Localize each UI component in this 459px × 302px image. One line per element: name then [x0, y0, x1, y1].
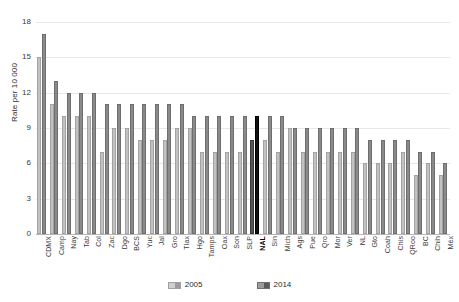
bar-group	[112, 22, 123, 234]
x-axis-label-Pue: Pue	[309, 236, 316, 249]
y-tick-label-0: 0	[27, 230, 31, 238]
x-axis-label-Dgo: Dgo	[121, 236, 128, 249]
bar-group	[288, 22, 299, 234]
x-axis-label-Zac: Zac	[108, 236, 115, 248]
x-axis-label-Mor: Mor	[334, 236, 341, 248]
bar-group	[125, 22, 136, 234]
bar-2005-Oax	[213, 152, 217, 234]
bar-2005-NL	[351, 152, 355, 234]
bar-2005-Gto	[363, 163, 367, 234]
bar-group	[175, 22, 186, 234]
bar-group	[313, 22, 324, 234]
bar-2005-Qro	[313, 152, 317, 234]
x-axis-label-Chih: Chih	[434, 236, 441, 251]
bar-2005-NAL	[250, 140, 254, 234]
bar-2005-Jal	[150, 140, 154, 234]
bar-2014-Coah	[381, 140, 385, 234]
bar-2005-Camp	[50, 104, 54, 234]
x-axis-label-Hgo: Hgo	[196, 236, 203, 249]
x-axis-label-Tab: Tab	[83, 236, 90, 248]
bar-2005-Hgo	[188, 128, 192, 234]
bar-group	[87, 22, 98, 234]
chart-legend: 2005 2014	[0, 281, 459, 289]
bar-2014-Tab	[79, 93, 83, 234]
x-axis-label-Chis: Chis	[397, 236, 404, 250]
plot-area: 0369121518	[36, 22, 450, 234]
bar-group	[138, 22, 149, 234]
x-axis-label-CDMX: CDMX	[45, 236, 52, 257]
bar-2014-NL	[355, 128, 359, 234]
bar-group	[50, 22, 61, 234]
bar-2005-BCS	[125, 128, 129, 234]
bar-2005-BC	[414, 175, 418, 234]
x-axis-label-Yuc: Yuc	[146, 236, 153, 248]
bar-2014-SLP	[243, 116, 247, 234]
bar-2014-Ver	[343, 128, 347, 234]
bar-group	[401, 22, 412, 234]
bar-2014-Pue	[305, 128, 309, 234]
bar-2014-Qro	[318, 128, 322, 234]
bar-group	[426, 22, 437, 234]
x-axis-label-Coah: Coah	[384, 236, 391, 253]
bar-2014-Chis	[393, 140, 397, 234]
bar-2014-Tlax	[180, 104, 184, 234]
bar-2005-Son	[225, 152, 229, 234]
bar-2014-NAL	[255, 116, 259, 234]
bar-2005-QRoo	[401, 152, 405, 234]
x-axis-label-Gro: Gro	[171, 236, 178, 248]
bar-group	[37, 22, 48, 234]
bar-group	[388, 22, 399, 234]
bar-group	[150, 22, 161, 234]
bar-2005-CDMX	[37, 57, 41, 234]
bar-2014-Ags	[293, 128, 297, 234]
bar-2005-Coah	[376, 163, 380, 234]
x-axis-label-Nay: Nay	[70, 236, 77, 249]
bar-2005-Pue	[301, 152, 305, 234]
bar-2005-Chih	[426, 163, 430, 234]
x-axis-label-Son: Son	[233, 236, 240, 249]
y-tick-label-15: 15	[22, 53, 31, 61]
x-axis-label-Jal: Jal	[158, 236, 165, 245]
bar-2014-Gto	[368, 140, 372, 234]
bar-group	[188, 22, 199, 234]
bar-2014-Sin	[268, 116, 272, 234]
bar-group	[439, 22, 450, 234]
x-axis-label-Col: Col	[95, 236, 102, 247]
x-axis-label-SLP: SLP	[246, 236, 253, 250]
bar-2014-Dgo	[117, 104, 121, 234]
y-tick-label-12: 12	[22, 89, 31, 97]
x-axis-label-Gto: Gto	[371, 236, 378, 248]
bar-2005-Sin	[263, 140, 267, 234]
bar-2014-BC	[418, 152, 422, 234]
bar-2005-Méx	[439, 175, 443, 234]
bar-2005-Dgo	[112, 128, 116, 234]
x-axis-label-Sin: Sin	[271, 236, 278, 246]
y-tick-label-9: 9	[27, 124, 31, 132]
x-axis-label-NAL: NAL	[259, 236, 266, 251]
bar-2005-Yuc	[138, 140, 142, 234]
bar-group	[225, 22, 236, 234]
bar-2014-Jal	[155, 104, 159, 234]
legend-label-2005: 2005	[185, 281, 203, 289]
legend-item-2014: 2014	[257, 281, 292, 289]
bar-2005-Ver	[338, 152, 342, 234]
bar-chart: Rate per 10 000 0369121518 CDMXCampNayTa…	[0, 0, 459, 302]
bar-group	[338, 22, 349, 234]
bar-group	[250, 22, 261, 234]
bar-2005-Zac	[100, 152, 104, 234]
legend-swatch-2005-icon	[168, 282, 181, 289]
bar-2014-Gro	[167, 104, 171, 234]
x-axis-label-Tlax: Tlax	[183, 236, 190, 250]
bar-2014-Camp	[54, 81, 58, 234]
y-axis-title: Rate per 10 000	[10, 33, 19, 153]
bar-2005-Mich	[276, 152, 280, 234]
bar-group	[75, 22, 86, 234]
y-tick-label-3: 3	[27, 195, 31, 203]
bar-2014-Oax	[217, 116, 221, 234]
bar-group	[213, 22, 224, 234]
bar-2014-Chih	[431, 152, 435, 234]
bar-group	[326, 22, 337, 234]
bar-2014-Tamps	[205, 116, 209, 234]
bar-2014-Hgo	[192, 116, 196, 234]
bar-group	[238, 22, 249, 234]
